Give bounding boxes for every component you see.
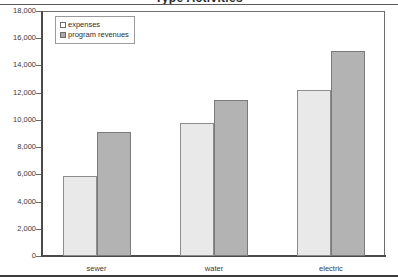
- bar-water-program-revenues: [214, 100, 248, 256]
- legend-item-program-revenues: program revenues: [60, 30, 129, 40]
- program-revenues-swatch-icon: [60, 32, 66, 38]
- bar-electric-expenses: [297, 90, 331, 256]
- bar-sewer-expenses: [63, 176, 97, 256]
- expenses-swatch-icon: [60, 22, 66, 28]
- x-axis-label-sewer: sewer: [57, 264, 137, 273]
- bar-water-expenses: [180, 123, 214, 256]
- bar-electric-program-revenues: [331, 51, 365, 256]
- chart-page: Type Activities 18,00016,00014,00012,000…: [0, 0, 398, 277]
- legend-label-program-revenues: program revenues: [68, 30, 129, 40]
- x-axis-label-electric: electric: [291, 264, 371, 273]
- legend-label-expenses: expenses: [68, 20, 100, 30]
- x-axis-label-water: water: [174, 264, 254, 273]
- bar-sewer-program-revenues: [97, 132, 131, 256]
- legend-item-expenses: expenses: [60, 20, 129, 30]
- chart-legend: expenses program revenues: [55, 16, 135, 44]
